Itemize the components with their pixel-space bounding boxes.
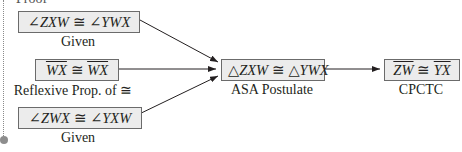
statement-part: YWX xyxy=(101,14,130,30)
reason-label-3: Given xyxy=(18,130,138,146)
statement-part: ≅ xyxy=(70,110,90,126)
statement-part: ZXW xyxy=(40,14,69,30)
statement-part: △ xyxy=(288,62,299,78)
reason-label-2: Reflexive Prop. of ≅ xyxy=(8,82,138,99)
statement-part: ∠ xyxy=(29,110,41,126)
statement-part: ≅ xyxy=(67,62,87,78)
statement-part: ZWX xyxy=(41,110,70,126)
statement-box-4: △ZXW ≅ △YWX xyxy=(221,59,325,81)
statement-part: ∠ xyxy=(28,14,40,30)
statement-part: △ xyxy=(228,62,239,78)
statement-part: WX xyxy=(87,62,108,78)
statement-box-3: ∠ZWX ≅ ∠YXW xyxy=(18,107,142,129)
statement-part: ZXW xyxy=(239,62,268,78)
statement-part: ≅ xyxy=(69,14,89,30)
reason-label-5: CPCTC xyxy=(384,82,458,98)
statement-part: ≅ xyxy=(413,62,433,78)
reason-label-4: ASA Postulate xyxy=(221,82,323,98)
statement-part: YWX xyxy=(300,62,329,78)
statement-part: YX xyxy=(434,62,451,78)
statement-part: YXW xyxy=(102,110,131,126)
arrow-s3-s4 xyxy=(133,76,218,117)
statement-box-1: ∠ZXW ≅ ∠YWX xyxy=(18,11,140,33)
statement-part: ZW xyxy=(393,62,413,78)
statement-part: ∠ xyxy=(90,110,102,126)
statement-part: WX xyxy=(46,62,67,78)
statement-box-2: WX ≅ WX xyxy=(35,59,119,81)
arrow-s1-s4 xyxy=(140,20,218,62)
statement-box-5: ZW ≅ YX xyxy=(384,59,460,81)
statement-part: ≅ xyxy=(268,62,288,78)
reason-label-1: Given xyxy=(18,34,138,50)
statement-part: ∠ xyxy=(89,14,101,30)
